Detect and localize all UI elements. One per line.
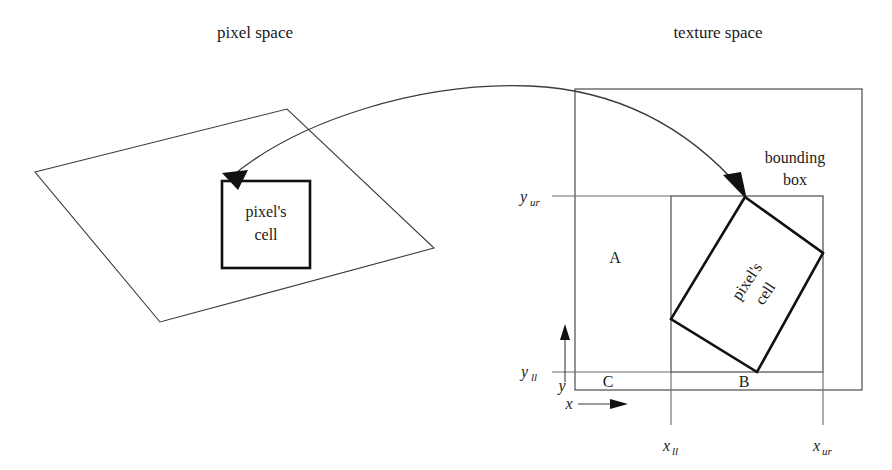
region-label-a: A: [609, 249, 621, 266]
pixel-space-title: pixel space: [217, 23, 293, 42]
figure-canvas: pixel space texture space pixel's cell b…: [0, 0, 892, 470]
pixel-space-quad: [35, 109, 434, 322]
tick-label-y-ll: y ll: [519, 363, 537, 383]
mapping-curve: [232, 86, 742, 190]
region-label-c: C: [603, 373, 614, 390]
tick-label-x-ur-sub: ur: [822, 445, 833, 457]
tick-label-x-ll-base: x: [662, 437, 670, 454]
tick-label-y-ll-sub: ll: [531, 371, 537, 383]
region-label-b: B: [739, 373, 750, 390]
tick-label-y-ll-base: y: [519, 363, 529, 381]
y-axis-arrowhead: [560, 324, 570, 340]
diagram-svg: pixel space texture space pixel's cell b…: [0, 0, 892, 470]
tick-label-y-ur: y ur: [518, 188, 541, 208]
bounding-box-label-line2: box: [783, 171, 807, 188]
y-axis-label: y: [556, 377, 566, 395]
pixel-space-cell-label-line1: pixel's: [245, 203, 286, 221]
bounding-box-label-line1: bounding: [765, 149, 825, 167]
x-axis-arrowhead: [610, 399, 628, 409]
tick-label-y-ur-base: y: [518, 188, 528, 206]
pixel-space-cell-rect: [222, 181, 310, 268]
tick-label-y-ur-sub: ur: [530, 196, 541, 208]
x-axis-label: x: [564, 395, 572, 412]
pixel-space-cell-label-line2: cell: [254, 226, 278, 243]
tick-label-x-ll: x ll: [662, 437, 678, 457]
texture-space-title: texture space: [673, 23, 762, 42]
tick-label-x-ll-sub: ll: [672, 445, 678, 457]
tick-label-x-ur-base: x: [812, 437, 820, 454]
tick-label-x-ur: x ur: [812, 437, 833, 457]
texture-cell-label-group: pixel's cell: [728, 259, 783, 315]
